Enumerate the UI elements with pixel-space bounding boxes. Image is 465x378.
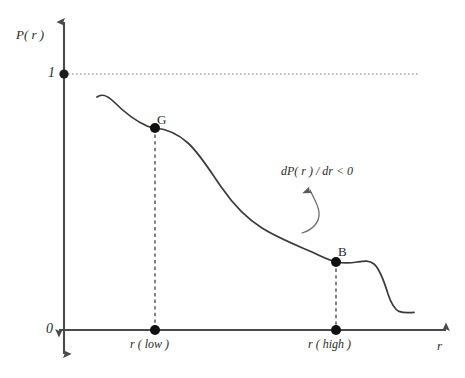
origin-label-zero: 0 [46,322,53,336]
annotation-arrow [302,190,319,233]
point-b-label: B [338,245,347,258]
x-axis-label: r [437,339,442,352]
x-tick-label-rhigh: r ( high ) [308,338,351,350]
derivative-annotation-label: dP( r ) / dr < 0 [281,165,353,177]
p-of-r-curve [97,95,414,312]
x-tick-dot-rlow [150,325,160,335]
y-axis-one-dot [59,69,68,78]
point-g-label: G [157,113,166,126]
x-tick-dot-rhigh [331,325,341,335]
probability-decay-diagram [0,0,465,378]
x-tick-label-rlow: r ( low ) [130,338,169,350]
y-axis-label: P( r ) [16,28,44,41]
y-tick-label-one: 1 [48,66,55,80]
